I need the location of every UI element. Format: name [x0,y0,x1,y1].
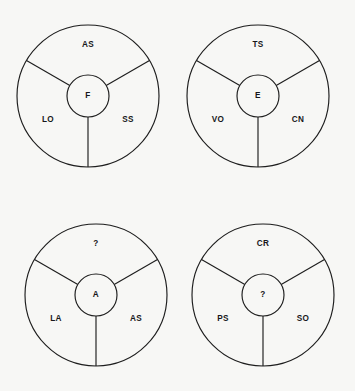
sector-label-bottom-left: VO [212,115,225,124]
center-label: ? [260,290,265,299]
sector-label-top: AS [82,40,94,49]
wheel-bottom-right[interactable]: CRSOPS? [192,224,334,366]
sector-label-bottom-left: LA [50,314,62,323]
center-label: E [255,91,261,100]
sector-label-top: ? [93,239,98,248]
wheel-canvas: ASSSLOFTSCNVOE?ASLAACRSOPS? [0,0,355,391]
spoke-divider-2 [281,260,324,285]
center-label: A [93,290,99,299]
spoke-divider-1 [35,260,78,285]
sector-label-bottom-left: PS [217,314,229,323]
concept-wheel-diagram: ASSSLOFTSCNVOE?ASLAACRSOPS? [0,0,355,391]
sector-label-bottom-right: SS [122,115,134,124]
sector-label-bottom-left: LO [42,115,54,124]
spoke-divider-1 [202,260,245,285]
spoke-divider-1 [197,61,240,86]
center-label: F [85,91,90,100]
sector-label-bottom-right: CN [292,115,305,124]
sector-label-top: TS [252,40,263,49]
sector-label-top: CR [257,239,270,248]
wheel-top-left[interactable]: ASSSLOF [17,25,159,167]
sector-label-bottom-right: SO [297,314,310,323]
wheel-top-right[interactable]: TSCNVOE [187,25,329,167]
sector-label-bottom-right: AS [130,314,142,323]
wheel-bottom-left[interactable]: ?ASLAA [25,224,167,366]
wheels-layer: ASSSLOFTSCNVOE?ASLAACRSOPS? [17,25,334,366]
spoke-divider-2 [276,61,319,86]
spoke-divider-2 [106,61,149,86]
spoke-divider-1 [27,61,70,86]
spoke-divider-2 [114,260,157,285]
